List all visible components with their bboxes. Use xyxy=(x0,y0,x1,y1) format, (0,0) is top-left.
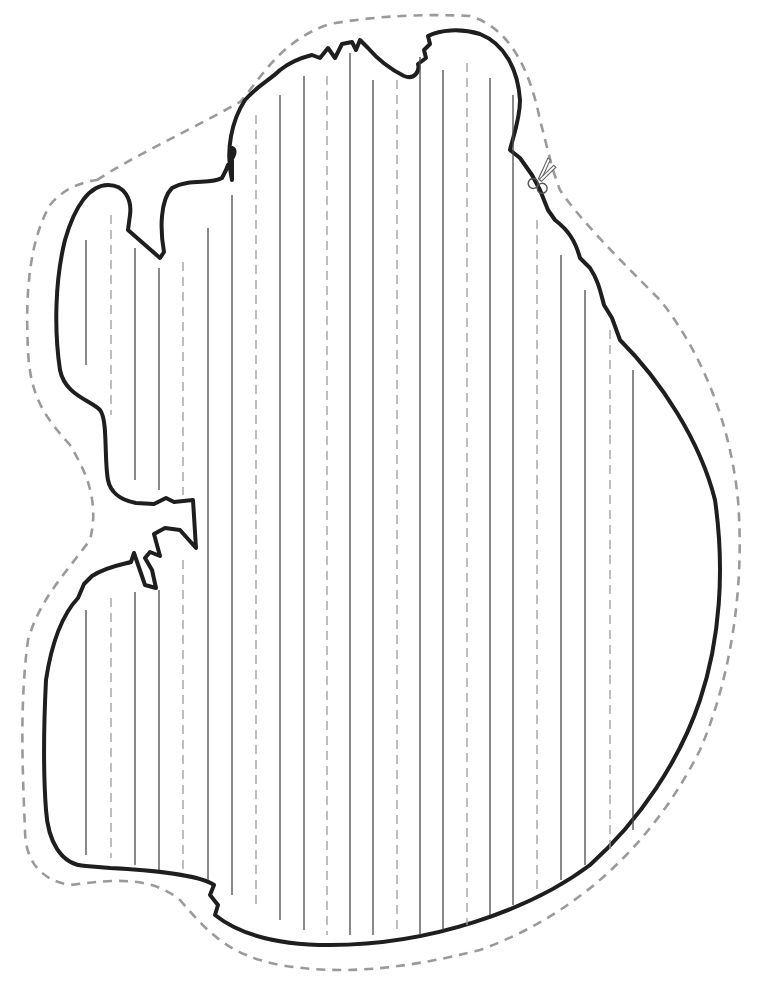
writing-template-sheet xyxy=(0,0,767,994)
silhouette-outline xyxy=(44,30,720,945)
